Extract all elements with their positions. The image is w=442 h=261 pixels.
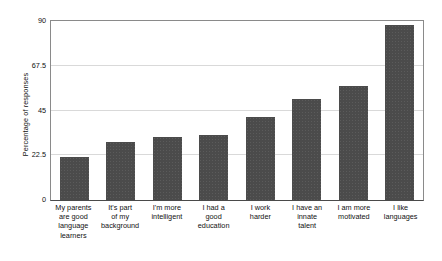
x-tick-label-line: I had a	[191, 203, 236, 212]
y-tick-label: 45	[0, 105, 46, 114]
x-tick-label-line: I work	[238, 203, 283, 212]
x-tick-label-line: languages	[378, 212, 423, 221]
x-tick-label: I likelanguages	[377, 203, 424, 240]
bar[interactable]	[60, 157, 89, 200]
x-tick-label-line: I am more	[332, 203, 377, 212]
x-tick-label-line: intelligent	[145, 212, 190, 221]
x-tick-label-line: My parents	[51, 203, 96, 212]
x-tick-label: I workharder	[237, 203, 284, 240]
bar[interactable]	[153, 137, 182, 200]
x-tick-label: I'm moreintelligent	[144, 203, 191, 240]
x-tick-label-line: innate	[285, 212, 330, 221]
x-tick-label-line: language	[51, 221, 96, 230]
bar-slot	[237, 21, 284, 200]
x-tick-label-line: I'm more	[145, 203, 190, 212]
bar[interactable]	[339, 86, 368, 200]
bar-slot	[377, 21, 424, 200]
x-tick-label-line: talent	[285, 221, 330, 230]
bar[interactable]	[199, 135, 228, 200]
x-tick-label-line: background	[98, 221, 143, 230]
x-tick-label: I have aninnatetalent	[284, 203, 331, 240]
bar-slot	[330, 21, 377, 200]
x-tick-label-line: I have an	[285, 203, 330, 212]
y-tick-label: 22.5	[0, 150, 46, 159]
x-tick-label: My parentsare goodlanguagelearners	[50, 203, 97, 240]
x-tick-label-line: harder	[238, 212, 283, 221]
bar[interactable]	[385, 25, 414, 200]
x-tick-label-line: good	[191, 212, 236, 221]
x-tick-label-line: education	[191, 221, 236, 230]
x-tick-label-line: are good	[51, 212, 96, 221]
plot-area	[50, 20, 424, 201]
y-tick-label: 0	[0, 195, 46, 204]
bar[interactable]	[246, 117, 275, 200]
bar[interactable]	[292, 99, 321, 200]
x-axis-tick-labels: My parentsare goodlanguagelearnersIt's p…	[50, 203, 424, 240]
x-tick-label-line: It's part	[98, 203, 143, 212]
bar[interactable]	[106, 142, 135, 200]
bar-series	[51, 21, 423, 200]
bar-chart: Percentage of responses 022.54567.590 My…	[0, 0, 442, 261]
bar-slot	[51, 21, 98, 200]
bar-slot	[144, 21, 191, 200]
bar-slot	[191, 21, 238, 200]
x-tick-label: It's partof mybackground	[97, 203, 144, 240]
y-axis-tick-labels: 022.54567.590	[0, 0, 46, 261]
x-tick-label-line: I like	[378, 203, 423, 212]
x-tick-label-line: learners	[51, 231, 96, 240]
bar-slot	[284, 21, 331, 200]
y-tick-label: 90	[0, 16, 46, 25]
x-tick-label: I am moremotivated	[331, 203, 378, 240]
x-tick-label-line: motivated	[332, 212, 377, 221]
x-tick-label-line: of my	[98, 212, 143, 221]
bar-slot	[98, 21, 145, 200]
y-tick-label: 67.5	[0, 60, 46, 69]
x-tick-label: I had agoodeducation	[190, 203, 237, 240]
